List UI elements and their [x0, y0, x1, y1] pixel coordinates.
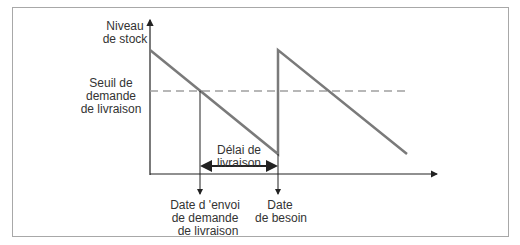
need-date-label: Date de besoin — [255, 199, 305, 225]
threshold-label: Seuil de demande de livraison — [76, 77, 146, 116]
y-axis-label: Niveau de stock — [95, 20, 155, 46]
order-date-label: Date d 'envoi de demande de livraison — [160, 199, 250, 238]
stock-level-line — [150, 50, 407, 154]
lead-time-label: Délai de livraison — [203, 144, 275, 170]
